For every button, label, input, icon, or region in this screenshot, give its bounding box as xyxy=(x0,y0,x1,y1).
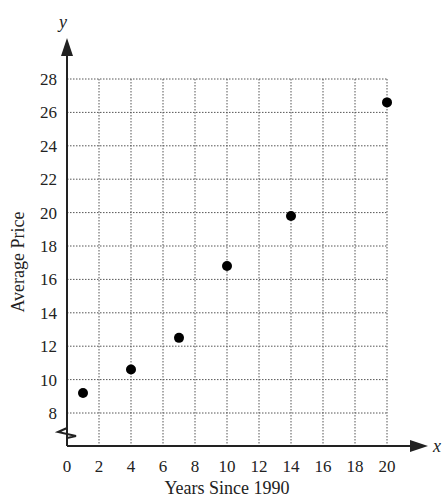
y-tick-label: 28 xyxy=(40,70,57,89)
x-axis-arrow-icon xyxy=(410,440,428,452)
x-axis-variable: x xyxy=(432,436,441,456)
y-tick-label: 8 xyxy=(49,404,58,423)
y-tick-label: 24 xyxy=(40,137,58,156)
y-tick-label: 18 xyxy=(40,237,57,256)
y-tick-label: 16 xyxy=(40,270,57,289)
data-point xyxy=(382,97,392,107)
y-axis-arrow-icon xyxy=(61,38,73,56)
data-point xyxy=(174,333,184,343)
x-tick-label: 4 xyxy=(127,457,136,476)
x-tick-label: 0 xyxy=(63,457,72,476)
y-tick-label: 20 xyxy=(40,204,57,223)
scatter-chart: 810121416182022242628 02468101214161820 … xyxy=(0,0,445,504)
data-point xyxy=(78,388,88,398)
data-point xyxy=(222,261,232,271)
x-tick-label: 8 xyxy=(191,457,200,476)
x-tick-label: 2 xyxy=(95,457,104,476)
y-axis-variable: y xyxy=(57,12,67,32)
y-tick-label: 22 xyxy=(40,170,57,189)
x-tick-label: 10 xyxy=(219,457,236,476)
data-points xyxy=(78,97,392,398)
y-tick-label: 14 xyxy=(40,304,58,323)
y-tick-label: 10 xyxy=(40,371,57,390)
y-tick-labels: 810121416182022242628 xyxy=(40,70,58,423)
y-tick-label: 26 xyxy=(40,103,57,122)
y-tick-label: 12 xyxy=(40,337,57,356)
x-tick-label: 6 xyxy=(159,457,168,476)
x-tick-label: 18 xyxy=(347,457,364,476)
x-tick-label: 16 xyxy=(315,457,332,476)
x-tick-label: 20 xyxy=(379,457,396,476)
x-tick-label: 14 xyxy=(283,457,301,476)
axes xyxy=(58,38,428,452)
axis-break-icon xyxy=(58,420,76,446)
x-axis-title: Years Since 1990 xyxy=(164,478,289,498)
x-tick-labels: 02468101214161820 xyxy=(63,457,396,476)
data-point xyxy=(126,365,136,375)
x-tick-label: 12 xyxy=(251,457,268,476)
y-axis-title: Average Price xyxy=(8,211,28,312)
data-point xyxy=(286,211,296,221)
